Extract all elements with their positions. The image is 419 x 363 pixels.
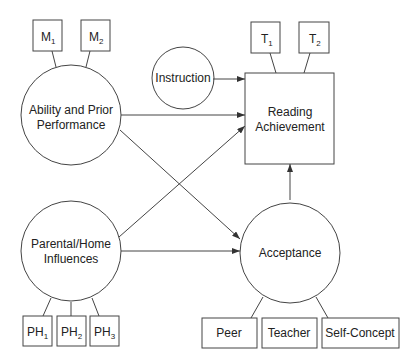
- indicator-self-concept: Self-Concept: [325, 326, 395, 340]
- ability-label-2: Performance: [37, 118, 106, 132]
- indicator-t2: T2: [309, 32, 321, 48]
- link-t1-reading: [270, 53, 276, 73]
- acceptance-label: Acceptance: [259, 246, 322, 260]
- link-selfconcept-acceptance: [316, 297, 328, 318]
- indicator-t1: T1: [261, 32, 273, 48]
- indicator-m1: M1: [41, 30, 56, 46]
- path-diagram: Ability and Prior Performance Instructio…: [0, 0, 419, 363]
- parental-label-1: Parental/Home: [31, 237, 111, 251]
- indicator-ph1: PH1: [27, 325, 49, 341]
- reading-label-1: Reading: [268, 105, 313, 119]
- indicator-ph2: PH2: [61, 325, 83, 341]
- node-parental: [21, 201, 121, 301]
- link-t2-reading: [304, 53, 310, 73]
- reading-label-2: Achievement: [255, 120, 325, 134]
- ability-label-1: Ability and Prior: [29, 103, 113, 117]
- parental-label-2: Influences: [44, 252, 99, 266]
- link-peer-acceptance: [251, 297, 263, 318]
- instruction-label: Instruction: [155, 71, 210, 85]
- indicator-peer: Peer: [216, 326, 241, 340]
- link-ph3-parental: [92, 298, 99, 316]
- indicator-teacher: Teacher: [268, 326, 311, 340]
- link-m1-ability: [52, 51, 56, 67]
- link-m2-ability: [86, 51, 90, 67]
- indicator-m2: M2: [89, 30, 104, 46]
- arrow-parental-reading: [119, 126, 245, 237]
- link-ph1-parental: [43, 298, 51, 316]
- indicator-ph3: PH3: [94, 325, 116, 341]
